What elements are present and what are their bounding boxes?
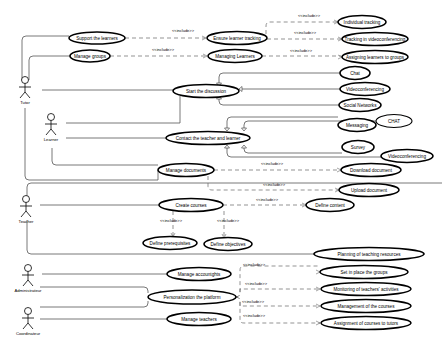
svg-text:Coordinateur: Coordinateur xyxy=(16,331,41,336)
actor-tutor[interactable]: Tutor xyxy=(19,77,31,106)
use-case-tracking-videoconferencing[interactable]: Tracking in videoconferencing xyxy=(342,33,408,46)
svg-text:Upload document: Upload document xyxy=(351,188,388,193)
gen-social-start xyxy=(219,99,339,105)
svg-text:Management of the courses: Management of the courses xyxy=(338,304,396,309)
include-label: <<include>> xyxy=(172,28,195,33)
include-label: <<include>> xyxy=(242,299,265,304)
svg-text:Start the discussion: Start the discussion xyxy=(186,89,227,94)
svg-text:Define prerequisites: Define prerequisites xyxy=(150,241,192,246)
assoc-admin-personalization xyxy=(40,287,148,293)
use-case-download-document[interactable]: Download document xyxy=(341,164,401,177)
use-case-support-learners[interactable]: Support the learners xyxy=(69,32,125,44)
svg-text:Manage accountghts: Manage accountghts xyxy=(178,272,221,277)
svg-text:Set in place the groups: Set in place the groups xyxy=(341,270,389,275)
svg-text:CHAT: CHAT xyxy=(388,119,400,124)
actor-icon xyxy=(25,308,32,315)
include-label: <<include>> xyxy=(290,48,313,53)
use-case-ensure-tracking[interactable]: Ensure learner tracking xyxy=(207,32,267,45)
actor-icon xyxy=(48,114,55,121)
use-case-contact-teacher-learner[interactable]: Contact the teacher and learner xyxy=(166,132,250,145)
svg-text:Define content: Define content xyxy=(315,203,345,208)
svg-text:Assignment of courses to tutor: Assignment of courses to tutors xyxy=(334,321,399,326)
svg-text:Survey: Survey xyxy=(351,145,366,150)
use-case-managing-learners[interactable]: Managing Learners xyxy=(208,50,262,63)
use-case-chat-2[interactable]: CHAT xyxy=(376,115,412,128)
actor-teacher[interactable]: Teacher xyxy=(19,196,35,225)
actor-administrator[interactable]: Administrateur xyxy=(15,265,43,294)
svg-text:Create courses: Create courses xyxy=(175,203,207,208)
svg-text:Tracking in videoconferencing: Tracking in videoconferencing xyxy=(345,37,406,42)
use-case-define-prerequisites[interactable]: Define prerequisites xyxy=(143,237,197,250)
include-label: <<include>> xyxy=(152,47,175,52)
use-case-define-objectives[interactable]: Define objectives xyxy=(204,238,252,251)
svg-text:Social Networks: Social Networks xyxy=(344,103,378,108)
use-case-manage-accounts[interactable]: Manage accountghts xyxy=(167,268,231,281)
use-case-videoconferencing-2[interactable]: Videoconferencing xyxy=(381,150,433,163)
svg-text:Manage groups: Manage groups xyxy=(74,54,107,59)
svg-text:Support the learners: Support the learners xyxy=(76,36,118,41)
actor-learner[interactable]: Learner xyxy=(44,114,59,143)
use-case-personalization[interactable]: Personalization the platform xyxy=(148,290,236,304)
include-dependencies xyxy=(110,20,342,325)
use-case-survey[interactable]: Survey xyxy=(342,141,374,154)
actor-icon xyxy=(22,77,29,84)
use-case-start-discussion[interactable]: Start the discussion xyxy=(173,85,239,98)
svg-text:Individual tracking: Individual tracking xyxy=(344,20,381,25)
include-label: <<include>> xyxy=(217,218,240,223)
use-case-management-courses[interactable]: Management of the courses xyxy=(321,300,411,313)
svg-text:Monitoring of teachers' activi: Monitoring of teachers' activities xyxy=(333,287,399,292)
actor-coordinator[interactable]: Coordinateur xyxy=(16,308,41,337)
svg-text:Contact the teacher and learne: Contact the teacher and learner xyxy=(176,136,241,141)
svg-text:Learner: Learner xyxy=(44,137,59,142)
use-case-planning-resources[interactable]: Planning of teaching resources xyxy=(314,248,424,261)
use-case-upload-document[interactable]: Upload document xyxy=(339,184,399,197)
use-case-individual-tracking[interactable]: Individual tracking xyxy=(338,16,386,29)
assoc-coordinator-personalization xyxy=(40,301,148,307)
svg-text:Planning of teaching resources: Planning of teaching resources xyxy=(337,252,401,257)
svg-text:Define objectives: Define objectives xyxy=(211,242,247,247)
use-case-define-content[interactable]: Define content xyxy=(306,199,354,212)
svg-text:Chat: Chat xyxy=(350,71,360,76)
include-label: <<include>> xyxy=(160,218,183,223)
include-label: <<include>> xyxy=(245,281,268,286)
use-case-messaging[interactable]: Messaging xyxy=(338,119,376,132)
use-case-manage-teachers[interactable]: Manage teachers xyxy=(167,313,231,326)
svg-text:Managing Learners: Managing Learners xyxy=(215,54,255,59)
use-case-videoconferencing[interactable]: Videoconferencing xyxy=(340,83,390,96)
gen-survey-contact xyxy=(244,148,342,153)
use-case-assigning-groups[interactable]: Assigning learners to groups xyxy=(342,51,408,64)
include-label: <<include>> xyxy=(261,161,284,166)
use-case-social-networks[interactable]: Social Networks xyxy=(339,99,381,112)
svg-text:Download document: Download document xyxy=(350,168,393,173)
svg-text:Messaging: Messaging xyxy=(346,123,369,128)
actor-icon xyxy=(23,196,30,203)
assoc-tutor-manage-docs xyxy=(25,108,158,180)
svg-text:Tutor: Tutor xyxy=(20,100,30,105)
use-case-manage-groups[interactable]: Manage groups xyxy=(70,50,110,62)
use-case-assignment-tutors[interactable]: Assignment of courses to tutors xyxy=(321,317,411,330)
gen-chat-start xyxy=(219,73,340,83)
use-case-create-courses[interactable]: Create courses xyxy=(159,199,223,212)
svg-text:Videoconferencing: Videoconferencing xyxy=(346,87,384,92)
use-case-set-groups[interactable]: Set in place the groups xyxy=(320,266,408,279)
svg-text:Assigning learners to groups: Assigning learners to groups xyxy=(346,55,405,60)
svg-text:Ensure learner tracking: Ensure learner tracking xyxy=(213,36,261,41)
assoc-tutor-manage-groups xyxy=(29,56,70,80)
assoc-learner-start-discussion xyxy=(66,96,180,123)
svg-text:Administrateur: Administrateur xyxy=(15,288,43,293)
svg-text:Teacher: Teacher xyxy=(19,219,35,224)
svg-text:Manage documents: Manage documents xyxy=(166,168,207,173)
assoc-learner-manage-docs xyxy=(52,148,158,165)
use-case-diagram: <<include>> <<include>> <<include>> <<in… xyxy=(0,0,443,347)
use-case-monitoring[interactable]: Monitoring of teachers' activities xyxy=(321,283,411,296)
use-case-chat[interactable]: Chat xyxy=(340,67,370,80)
actor-icon xyxy=(25,265,32,272)
svg-text:Manage teachers: Manage teachers xyxy=(181,317,217,322)
include-label: <<include>> xyxy=(243,313,266,318)
svg-text:Videoconferencing: Videoconferencing xyxy=(388,154,426,159)
actors: Tutor Learner Teacher Administrateur Coo… xyxy=(15,77,59,337)
include-label: <<include>> xyxy=(294,30,317,35)
use-case-manage-documents[interactable]: Manage documents xyxy=(158,164,214,177)
include-label: <<include>> xyxy=(243,262,266,267)
include-label: <<include>> xyxy=(263,182,286,187)
